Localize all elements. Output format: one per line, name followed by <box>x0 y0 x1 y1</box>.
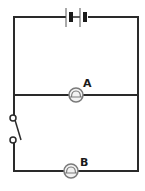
bulb-a-label: A <box>83 78 92 89</box>
switch-icon <box>10 115 21 143</box>
bulb-b-label: B <box>80 157 88 168</box>
battery-icon <box>66 8 87 27</box>
circuit-diagram <box>0 0 145 191</box>
bulb-a-icon <box>69 88 83 102</box>
bulb-b-icon <box>64 164 78 178</box>
